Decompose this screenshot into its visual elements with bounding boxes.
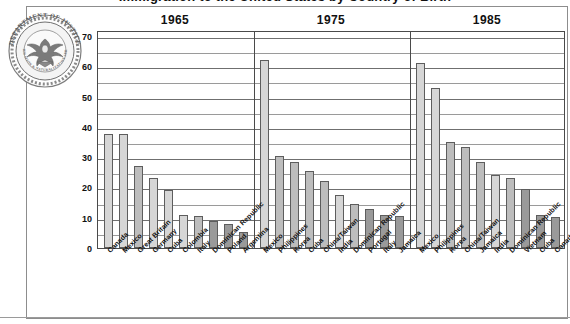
bar-slot bbox=[119, 32, 128, 248]
bar-slot bbox=[395, 32, 404, 248]
bar-slot bbox=[521, 32, 530, 248]
bar-slot bbox=[194, 32, 203, 248]
year-header-band: 1965 1975 1985 bbox=[97, 11, 565, 29]
y-tick-0: 0 bbox=[87, 244, 92, 254]
bar-slot bbox=[104, 32, 113, 248]
year-header-1985: 1985 bbox=[409, 11, 565, 29]
bar-slot bbox=[290, 32, 299, 248]
category-label-layer: CanadaMexicoGreat BritainGermanyCubaColo… bbox=[97, 249, 565, 321]
y-tick-10: 10 bbox=[82, 214, 92, 224]
bar-slot bbox=[275, 32, 284, 248]
bar-slot bbox=[446, 32, 455, 248]
bar-1985-philippines[interactable] bbox=[431, 88, 440, 248]
bar-slot bbox=[506, 32, 515, 248]
bar-1985-china-taiwan[interactable] bbox=[461, 147, 470, 248]
bar-slot bbox=[224, 32, 233, 248]
bar-slot bbox=[320, 32, 329, 248]
bar-1965-canada[interactable] bbox=[104, 134, 113, 248]
year-header-1965: 1965 bbox=[97, 11, 253, 29]
bar-slot bbox=[134, 32, 143, 248]
bar-group-1965 bbox=[98, 32, 254, 248]
bar-1985-dominican-republic[interactable] bbox=[506, 178, 515, 248]
bar-slot bbox=[209, 32, 218, 248]
page-title: Immigration to the United States by Coun… bbox=[0, 0, 570, 4]
bar-slot bbox=[179, 32, 188, 248]
y-tick-20: 20 bbox=[82, 183, 92, 193]
bar-slot bbox=[551, 32, 560, 248]
doj-ins-seal: DEPARTMENT OF JUSTICE IMMIGRATION & NATU… bbox=[3, 7, 87, 95]
bar-slot bbox=[164, 32, 173, 248]
bar-slot bbox=[491, 32, 500, 248]
bar-slot bbox=[416, 32, 425, 248]
bar-slot bbox=[149, 32, 158, 248]
bar-1985-mexico[interactable] bbox=[416, 63, 425, 248]
bar-slot bbox=[350, 32, 359, 248]
bar-slot bbox=[305, 32, 314, 248]
bar-slot bbox=[431, 32, 440, 248]
y-tick-30: 30 bbox=[82, 153, 92, 163]
bar-slot bbox=[335, 32, 344, 248]
bar-slot bbox=[476, 32, 485, 248]
year-header-1975: 1975 bbox=[253, 11, 409, 29]
bar-1975-mexico[interactable] bbox=[260, 60, 269, 248]
bar-slot bbox=[260, 32, 269, 248]
bar-slot bbox=[365, 32, 374, 248]
y-tick-40: 40 bbox=[82, 123, 92, 133]
bar-slot bbox=[461, 32, 470, 248]
